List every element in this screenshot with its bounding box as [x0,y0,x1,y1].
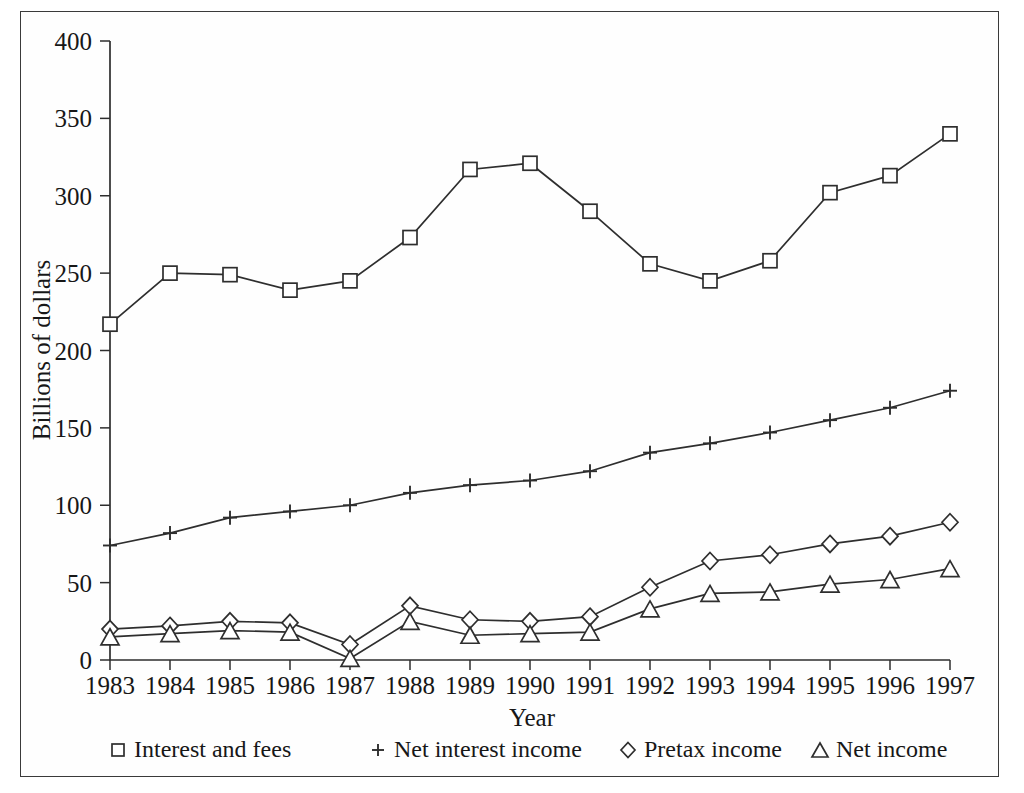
x-tick-label: 1988 [385,672,435,699]
x-tick-label: 1987 [325,672,375,699]
triangle-marker [341,650,359,666]
square-marker [163,266,177,280]
y-axis-title: Billions of dollars [28,260,55,441]
square-marker [103,317,117,331]
square-marker [583,204,597,218]
plus-marker [283,504,297,518]
y-tick-label: 50 [67,570,92,597]
plus-marker [763,426,777,440]
legend-label: Net interest income [394,736,582,762]
x-tick-label: 1984 [145,672,196,699]
x-tick-labels: 1983198419851986198719881989199019911992… [85,672,975,699]
x-tick-label: 1991 [565,672,615,699]
diamond-marker [882,528,898,545]
plus-marker [403,486,417,500]
square-marker [403,231,417,245]
legend-item-net-income[interactable] [812,743,828,757]
square-marker [703,274,717,288]
chart-svg: 050100150200250300350400 198319841985198… [0,0,1024,793]
plus-marker [883,401,897,415]
x-tick-label: 1986 [265,672,315,699]
plus-marker [372,744,384,756]
x-tick-label: 1993 [685,672,735,699]
x-tick-label: 1992 [625,672,675,699]
y-tick-label: 400 [55,28,93,55]
legend-item-interest-and-fees[interactable] [112,744,124,756]
plus-marker [643,446,657,460]
plot-axes [110,41,950,660]
square-marker [943,127,957,141]
triangle-marker [941,561,959,577]
y-tick-label: 200 [55,338,93,365]
plus-marker [523,473,537,487]
y-tick-label: 350 [55,105,93,132]
plus-marker [223,511,237,525]
y-tick-label: 300 [55,183,93,210]
legend-item-net-interest-income[interactable] [372,744,384,756]
square-marker [523,156,537,170]
x-tick-label: 1996 [865,672,915,699]
square-marker [823,186,837,200]
series-interest-and-fees [103,127,957,331]
x-tick-label: 1985 [205,672,255,699]
square-marker [343,274,357,288]
diamond-marker [702,552,718,569]
diamond-marker [822,535,838,552]
y-tick-label: 100 [55,492,93,519]
square-marker [112,744,124,756]
x-axis-title: Year [509,704,556,731]
square-marker [283,283,297,297]
triangle-marker [641,601,659,617]
triangle-marker [812,743,828,757]
data-series-group [101,127,959,667]
series-net-interest-income [103,384,957,553]
legend-label: Net income [836,736,947,762]
y-tick-label: 250 [55,260,93,287]
x-tick-label: 1994 [745,672,796,699]
x-tick-label: 1990 [505,672,555,699]
diamond-marker [762,546,778,563]
plus-marker [823,413,837,427]
x-tick-label: 1989 [445,672,495,699]
x-tick-label: 1995 [805,672,855,699]
plus-marker [343,498,357,512]
plus-marker [463,478,477,492]
line-chart-figure: 050100150200250300350400 198319841985198… [0,0,1024,793]
legend-label: Pretax income [644,736,782,762]
square-marker [643,257,657,271]
y-tick-label: 150 [55,415,93,442]
x-tick-label: 1983 [85,672,135,699]
plus-marker [103,538,117,552]
plus-marker [943,384,957,398]
square-marker [223,268,237,282]
diamond-marker [621,743,635,758]
y-tick-labels: 050100150200250300350400 [55,28,93,674]
y-tick-label: 0 [80,647,93,674]
plus-marker [163,526,177,540]
square-marker [463,162,477,176]
chart-legend: Interest and feesNet interest incomePret… [112,736,947,762]
legend-item-pretax-income[interactable] [621,743,635,758]
plus-marker [583,464,597,478]
diamond-marker [942,514,958,531]
plus-marker [703,436,717,450]
y-tick-marks [100,41,110,660]
square-marker [883,169,897,183]
triangle-marker [401,613,419,629]
series-line [110,391,950,546]
chart-page: 050100150200250300350400 198319841985198… [0,0,1024,793]
x-tick-label: 1997 [925,672,975,699]
legend-label: Interest and fees [134,736,291,762]
square-marker [763,254,777,268]
diamond-marker [642,579,658,596]
x-tick-marks [110,660,950,670]
